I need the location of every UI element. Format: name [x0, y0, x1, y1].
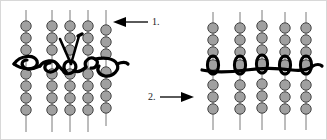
step-1-number-label: 1. — [152, 17, 160, 27]
diagram-root: 1. 2. — [0, 0, 327, 140]
step-2-number-label: 2. — [148, 92, 156, 102]
beadwork-diagram-canvas — [0, 0, 327, 140]
left-bead-column-5 — [101, 25, 111, 113]
